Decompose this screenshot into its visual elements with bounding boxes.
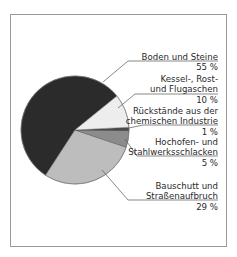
label-text: Rückstände aus der bbox=[126, 106, 218, 116]
label-percent: 29 % bbox=[146, 202, 218, 212]
label-text: Stahlwerksschlacken bbox=[128, 147, 218, 157]
label-percent: 10 % bbox=[150, 95, 218, 105]
label-text: und Flugaschen bbox=[150, 84, 218, 94]
label-text: Kessel-, Rost- bbox=[150, 74, 218, 84]
label-rueckstaende: Rückstände aus der chemischen Industrie … bbox=[126, 106, 218, 137]
label-text: Hochofen- und bbox=[128, 137, 218, 147]
label-percent: 5 % bbox=[128, 158, 218, 168]
label-text: chemischen Industrie bbox=[126, 116, 218, 126]
label-boden-und-steine: Boden und Steine 55 % bbox=[142, 52, 218, 73]
label-percent: 1 % bbox=[126, 127, 218, 137]
label-kessel: Kessel-, Rost- und Flugaschen 10 % bbox=[150, 74, 218, 105]
label-text: Boden und Steine bbox=[142, 52, 218, 62]
label-bauschutt: Bauschutt und Straßenaufbruch 29 % bbox=[146, 181, 218, 212]
label-text: Straßenaufbruch bbox=[146, 191, 218, 201]
label-text: Bauschutt und bbox=[146, 181, 218, 191]
label-hochofen: Hochofen- und Stahlwerksschlacken 5 % bbox=[128, 137, 218, 168]
label-percent: 55 % bbox=[142, 62, 218, 72]
